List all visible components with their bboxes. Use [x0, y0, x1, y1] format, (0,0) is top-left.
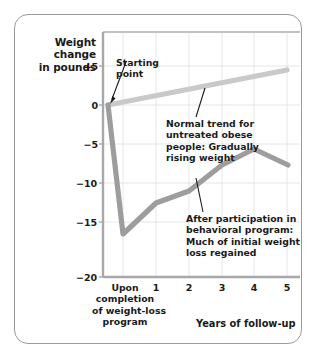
annotation-starting-point: Starting point — [116, 57, 159, 79]
x-tick-label-3: 3 — [215, 282, 229, 293]
x-axis-title: Years of follow-up — [196, 318, 295, 330]
annotation-normal-trend: Normal trend for untreated obese people:… — [166, 118, 259, 163]
y-tick-label-minus5: −5 — [78, 139, 98, 150]
leader-normal-trend — [196, 88, 205, 117]
y-tick-label-zero: 0 — [78, 100, 98, 111]
y-tick-label-plus5: +5 — [78, 61, 98, 72]
y-tick-label-minus10: −10 — [76, 178, 96, 189]
y-tick-label-minus15: −15 — [76, 217, 96, 228]
x-tick-label-2: 2 — [182, 282, 196, 293]
x-tick-label-5: 5 — [280, 282, 294, 293]
x-tick-label-4: 4 — [247, 282, 261, 293]
annotation-after-program: After participation in behavioral progra… — [186, 213, 300, 258]
x-category-label: Upon completion of weight-loss program — [92, 282, 158, 327]
